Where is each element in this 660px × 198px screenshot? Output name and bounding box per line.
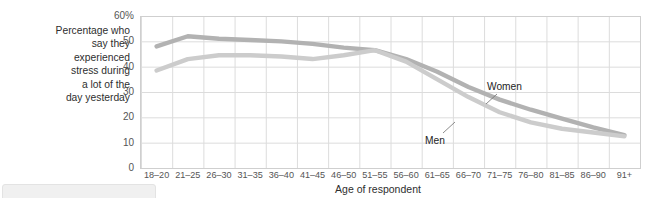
x-axis-title: Age of respondent [335, 183, 421, 195]
plot-area [0, 0, 660, 198]
x-tick-label: 46–50 [331, 170, 356, 180]
x-tick-label: 61–65 [425, 170, 450, 180]
series-label-men: Men [425, 135, 445, 146]
x-tick-label: 41–45 [300, 170, 325, 180]
x-tick-label: 56–60 [393, 170, 418, 180]
x-tick-label: 91+ [617, 170, 632, 180]
x-tick-label: 26–30 [206, 170, 231, 180]
x-tick-label: 71–75 [487, 170, 512, 180]
x-tick-label: 81–85 [549, 170, 574, 180]
x-tick-label: 31–35 [238, 170, 263, 180]
x-tick-label: 18–20 [144, 170, 169, 180]
bottom-left-panel [2, 184, 156, 198]
x-tick-label: 76–80 [518, 170, 543, 180]
x-tick-label: 21–25 [175, 170, 200, 180]
chart-figure: Percentage who say they experienced stre… [0, 0, 660, 198]
x-tick-label: 36–40 [269, 170, 294, 180]
x-tick-label: 66–70 [456, 170, 481, 180]
x-tick-label: 51–55 [362, 170, 387, 180]
series-label-women: Women [487, 81, 522, 92]
x-tick-label: 86–90 [581, 170, 606, 180]
